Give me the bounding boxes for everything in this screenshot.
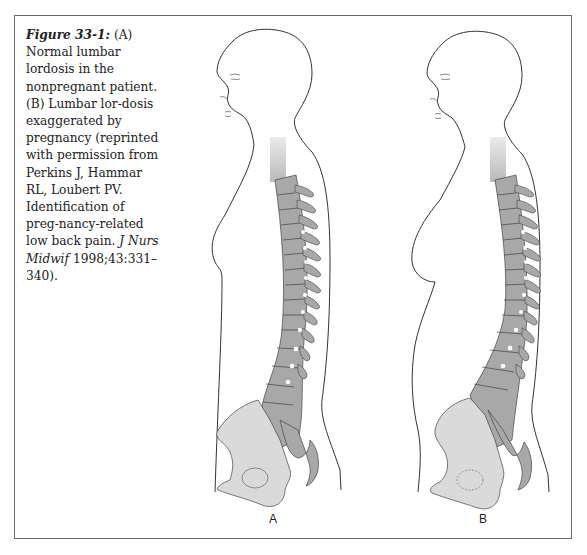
figure-b-illustration	[412, 31, 549, 509]
panel-label-b: B	[479, 512, 487, 526]
figure-a-illustration	[212, 29, 341, 506]
spine-illustration	[0, 0, 587, 555]
panel-label-a: A	[269, 512, 277, 526]
